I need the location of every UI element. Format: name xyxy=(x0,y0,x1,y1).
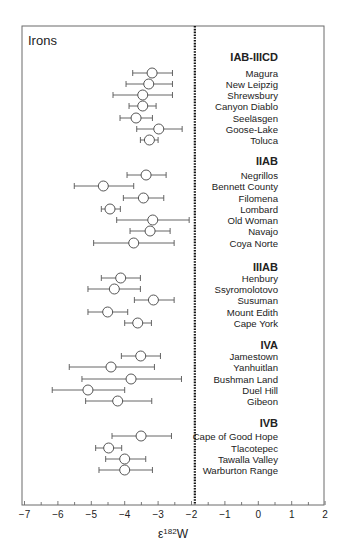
circle-marker-icon xyxy=(116,273,126,283)
x-tick-label: 1 xyxy=(289,509,295,520)
data-point xyxy=(88,284,140,294)
x-tick-label: −4 xyxy=(119,509,131,520)
circle-marker-icon xyxy=(126,374,136,384)
data-point xyxy=(133,68,173,78)
data-point xyxy=(137,124,182,134)
circle-marker-icon xyxy=(145,226,155,236)
x-axis-label: ε182W xyxy=(158,527,189,541)
data-point xyxy=(129,101,156,111)
group-header: IVB xyxy=(260,417,278,429)
x-axis: −7−6−5−4−3−2−1012 xyxy=(19,501,329,520)
circle-marker-icon xyxy=(120,454,130,464)
circle-marker-icon xyxy=(136,431,146,441)
sample-label: Old Woman xyxy=(228,215,278,226)
data-point xyxy=(112,431,171,441)
sample-label: Bushman Land xyxy=(213,374,278,385)
x-tick-label: −5 xyxy=(86,509,98,520)
circle-marker-icon xyxy=(83,385,93,395)
group-header: IIIAB xyxy=(253,261,278,273)
data-point xyxy=(120,113,152,123)
x-tick-label: 2 xyxy=(322,509,328,520)
sample-label: Warburton Range xyxy=(203,465,278,476)
sample-label: Ssyromolotovo xyxy=(215,284,278,295)
x-tick-label: −6 xyxy=(52,509,64,520)
x-tick-label: −7 xyxy=(19,509,31,520)
data-point xyxy=(123,193,163,203)
data-point xyxy=(74,181,133,191)
circle-marker-icon xyxy=(120,465,130,475)
sample-label: Susuman xyxy=(237,295,278,306)
sample-label: Filomena xyxy=(239,193,279,204)
data-point xyxy=(94,238,174,248)
data-point xyxy=(101,204,120,214)
circle-marker-icon xyxy=(105,204,115,214)
data-point xyxy=(52,385,124,395)
sample-label: Tlacotepec xyxy=(231,443,278,454)
group-header: IAB-IIICD xyxy=(230,51,278,63)
data-point xyxy=(113,90,172,100)
x-tick-label: −2 xyxy=(186,509,198,520)
data-point xyxy=(134,295,174,305)
group-header: IIAB xyxy=(256,155,278,167)
group-header: IVA xyxy=(260,339,278,351)
sample-label: Gibeon xyxy=(247,396,278,407)
circle-marker-icon xyxy=(129,238,139,248)
circle-marker-icon xyxy=(103,307,113,317)
circle-marker-icon xyxy=(98,181,108,191)
data-series xyxy=(52,68,189,475)
sample-label: Magura xyxy=(245,68,278,79)
circle-marker-icon xyxy=(138,90,148,100)
data-point xyxy=(101,273,140,283)
data-point xyxy=(88,307,128,317)
sample-label: Canyon Diablo xyxy=(215,101,278,112)
circle-marker-icon xyxy=(144,135,154,145)
circle-marker-icon xyxy=(113,396,123,406)
sample-label: Goose-Lake xyxy=(226,124,278,135)
chart-title: Irons xyxy=(28,33,57,48)
sample-label: Navajo xyxy=(248,226,278,237)
sample-label: Duel Hill xyxy=(242,385,278,396)
sample-label: Tawalla Valley xyxy=(218,454,278,465)
plot-frame xyxy=(22,26,324,505)
data-point xyxy=(121,351,160,361)
circle-marker-icon xyxy=(106,362,116,372)
circle-marker-icon xyxy=(138,101,148,111)
data-point xyxy=(99,465,152,475)
circle-marker-icon xyxy=(154,124,164,134)
sample-label: Negrillos xyxy=(241,170,279,181)
sample-label: Toluca xyxy=(250,135,278,146)
data-point xyxy=(125,318,152,328)
sample-label: Cape York xyxy=(234,318,278,329)
data-point xyxy=(106,454,146,464)
circle-marker-icon xyxy=(136,351,146,361)
sample-label: Jamestown xyxy=(229,351,278,362)
sample-label: Mount Edith xyxy=(227,307,278,318)
data-point xyxy=(82,374,182,384)
chart: Irons IAB-IIICDMaguraNew LeipzigShrewsbu… xyxy=(0,0,346,554)
data-point xyxy=(127,170,166,180)
circle-marker-icon xyxy=(147,68,157,78)
sample-label: Cape of Good Hope xyxy=(193,431,278,442)
x-tick-label: −3 xyxy=(152,509,164,520)
data-point xyxy=(86,396,152,406)
x-tick-label: −1 xyxy=(219,509,231,520)
data-point xyxy=(117,215,189,225)
data-point xyxy=(96,443,122,453)
circle-marker-icon xyxy=(148,295,158,305)
sample-label: Coya Norte xyxy=(229,238,278,249)
data-point xyxy=(126,79,172,89)
circle-marker-icon xyxy=(148,215,158,225)
data-point xyxy=(69,362,154,372)
circle-marker-icon xyxy=(141,170,151,180)
sample-label: Bennett County xyxy=(212,181,278,192)
circle-marker-icon xyxy=(133,318,143,328)
sample-label: Shrewsbury xyxy=(227,90,278,101)
circle-marker-icon xyxy=(109,284,119,294)
sample-label: New Leipzig xyxy=(226,79,278,90)
sample-labels: IAB-IIICDMaguraNew LeipzigShrewsburyCany… xyxy=(193,51,279,476)
data-point xyxy=(130,226,170,236)
circle-marker-icon xyxy=(131,113,141,123)
sample-label: Lombard xyxy=(240,204,278,215)
circle-marker-icon xyxy=(144,79,154,89)
circle-marker-icon xyxy=(138,193,148,203)
